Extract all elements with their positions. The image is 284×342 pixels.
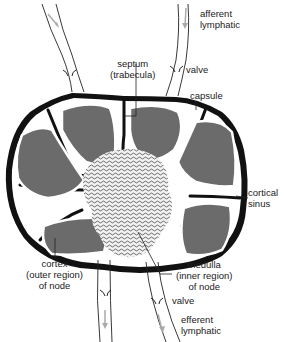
valve-bottom-left-icon [100, 290, 111, 296]
label-septum: septum (trabecula) [110, 58, 155, 80]
valve-right-icon [170, 66, 183, 72]
label-medulla: medulla (inner region) of node [176, 259, 233, 292]
label-afferent-lymphatic: afferent lymphatic [200, 8, 240, 30]
label-cortex: cortex (outer region) of node [26, 258, 83, 291]
label-capsule: capsule [190, 90, 223, 101]
valve-left-icon [63, 70, 76, 76]
label-valve-top: valve [186, 64, 208, 75]
label-efferent-lymphatic: efferent lymphatic [181, 314, 221, 336]
afferent-vessel-left [42, 4, 84, 92]
efferent-vessel-left [97, 260, 112, 342]
lymph-node-diagram: afferent lymphatic valve septum (trabecu… [0, 0, 284, 342]
label-cortical-sinus: cortical sinus [248, 187, 278, 209]
label-valve-bottom: valve [172, 295, 194, 306]
